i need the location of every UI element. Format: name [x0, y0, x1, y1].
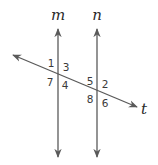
- angle-1-label: 1: [48, 57, 55, 69]
- angle-3-label: 3: [63, 61, 70, 73]
- transversal-t-label: t: [141, 100, 148, 118]
- line-n: n: [92, 6, 102, 157]
- transversal-t: t: [13, 55, 148, 118]
- angle-4-label: 4: [62, 79, 69, 91]
- angle-2-label: 2: [102, 78, 109, 90]
- angles-at-n: 5 2 8 6: [87, 75, 109, 109]
- angle-5-label: 5: [87, 75, 94, 87]
- angle-6-label: 6: [102, 97, 109, 109]
- line-m-label: m: [51, 6, 65, 24]
- angle-8-label: 8: [87, 93, 94, 105]
- line-n-label: n: [92, 6, 102, 24]
- angle-7-label: 7: [47, 76, 54, 88]
- parallel-lines-transversal-diagram: m n t 1 3 7 4 5 2 8 6: [0, 0, 158, 165]
